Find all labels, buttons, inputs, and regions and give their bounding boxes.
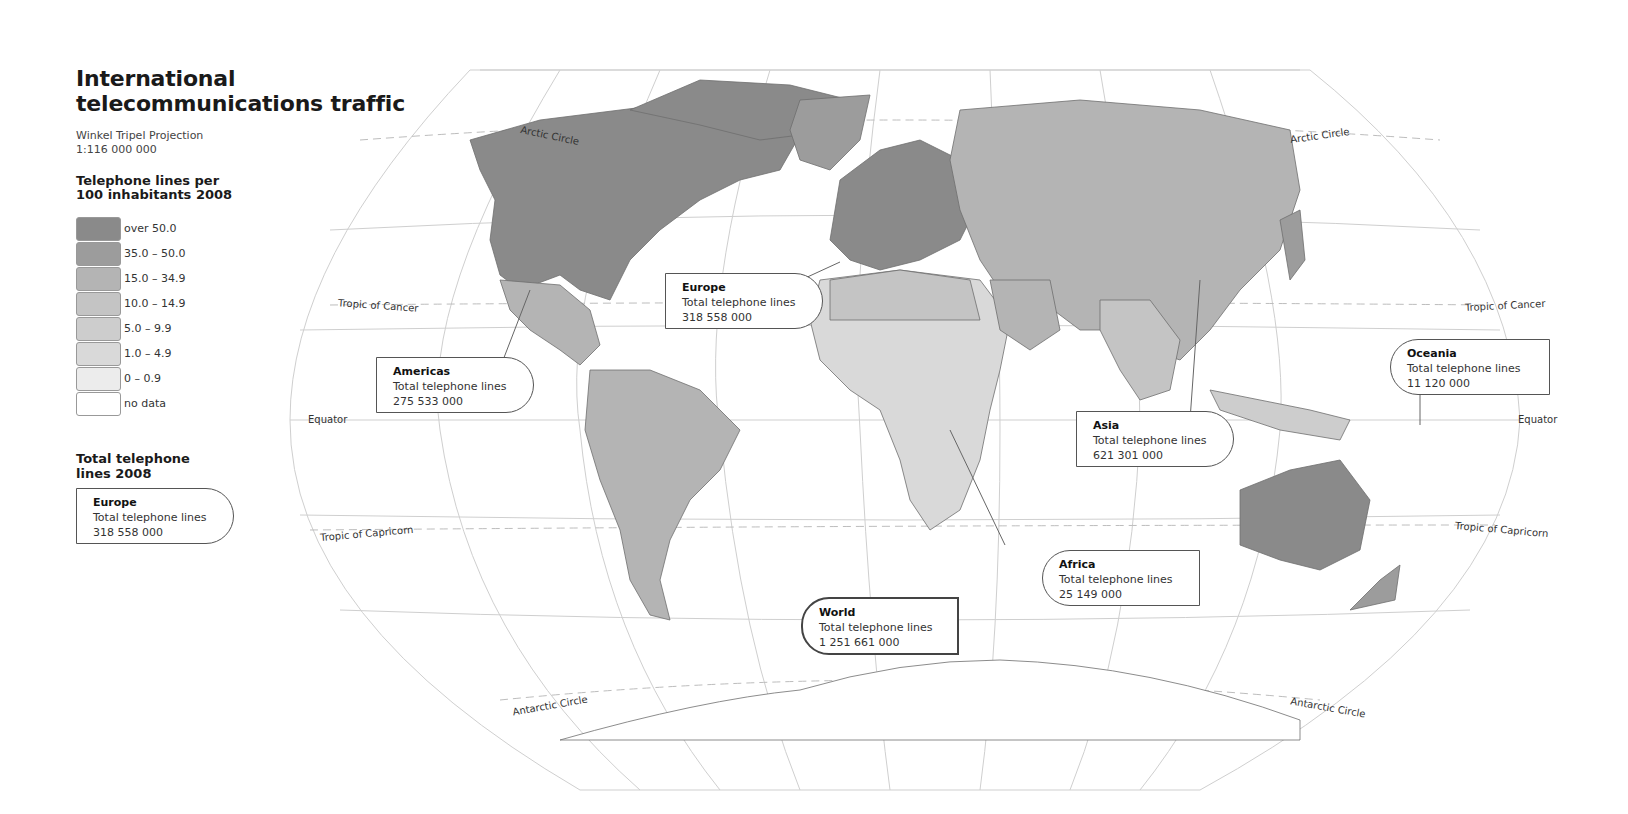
callout-value: 1 251 661 000 <box>819 635 947 650</box>
totals-title-line1: Total telephone <box>76 451 190 466</box>
legend-swatch <box>76 392 121 416</box>
callout-europe: Europe Total telephone lines 318 558 000 <box>665 273 823 329</box>
legend-title-line2: 100 inhabitants 2008 <box>76 188 232 202</box>
legend-item: 10.0 – 14.9 <box>76 291 185 316</box>
legend-item: 5.0 – 9.9 <box>76 316 185 341</box>
projection-info: Winkel Tripel Projection 1:116 000 000 <box>76 129 203 157</box>
legend-label: 0 – 0.9 <box>124 372 161 385</box>
legend-item: over 50.0 <box>76 216 185 241</box>
callout-label: Total telephone lines <box>1059 572 1189 587</box>
legend-label: 1.0 – 4.9 <box>124 347 171 360</box>
map-title: International telecommunications traffic <box>76 66 405 116</box>
callout-region: Americas <box>393 364 523 379</box>
callout-region: World <box>819 605 947 620</box>
legend-swatch <box>76 217 121 241</box>
totals-legend-title: Total telephone lines 2008 <box>76 451 190 481</box>
callout-value: 318 558 000 <box>93 525 223 540</box>
callout-value: 318 558 000 <box>682 310 812 325</box>
callout-oceania: Oceania Total telephone lines 11 120 000 <box>1390 339 1550 395</box>
callout-americas: Americas Total telephone lines 275 533 0… <box>376 357 534 413</box>
legend-item: 0 – 0.9 <box>76 366 185 391</box>
legend-swatch <box>76 367 121 391</box>
legend-label: over 50.0 <box>124 222 177 235</box>
legend-swatch <box>76 242 121 266</box>
callout-value: 11 120 000 <box>1407 376 1539 391</box>
callout-world: World Total telephone lines 1 251 661 00… <box>801 597 959 655</box>
callout-label: Total telephone lines <box>1093 433 1223 448</box>
map-title-line1: International <box>76 66 405 91</box>
world-map <box>0 0 1628 814</box>
legend-swatch <box>76 267 121 291</box>
callout-region: Asia <box>1093 418 1223 433</box>
legend-swatch <box>76 342 121 366</box>
legend-item: 35.0 – 50.0 <box>76 241 185 266</box>
callout-label: Total telephone lines <box>93 510 223 525</box>
callout-value: 25 149 000 <box>1059 587 1189 602</box>
callout-region: Europe <box>682 280 812 295</box>
callout-label: Total telephone lines <box>1407 361 1539 376</box>
callout-region: Oceania <box>1407 346 1539 361</box>
legend-title-line1: Telephone lines per <box>76 174 232 188</box>
legend-label: no data <box>124 397 166 410</box>
map-title-line2: telecommunications traffic <box>76 91 405 116</box>
callout-label: Total telephone lines <box>819 620 947 635</box>
callout-region: Europe <box>93 495 223 510</box>
legend-label: 5.0 – 9.9 <box>124 322 171 335</box>
callout-value: 621 301 000 <box>1093 448 1223 463</box>
equator-label-right: Equator <box>1518 414 1557 425</box>
callout-label: Total telephone lines <box>393 379 523 394</box>
legend-title: Telephone lines per 100 inhabitants 2008 <box>76 174 232 202</box>
legend-label: 35.0 – 50.0 <box>124 247 185 260</box>
legend-item: no data <box>76 391 185 416</box>
legend-label: 10.0 – 14.9 <box>124 297 185 310</box>
callout-asia: Asia Total telephone lines 621 301 000 <box>1076 411 1234 467</box>
callout-africa: Africa Total telephone lines 25 149 000 <box>1042 550 1200 606</box>
totals-legend-example: Europe Total telephone lines 318 558 000 <box>76 488 234 544</box>
legend-swatch <box>76 317 121 341</box>
map-scale: 1:116 000 000 <box>76 143 203 157</box>
legend-label: 15.0 – 34.9 <box>124 272 185 285</box>
totals-title-line2: lines 2008 <box>76 466 190 481</box>
legend-item: 15.0 – 34.9 <box>76 266 185 291</box>
projection-name: Winkel Tripel Projection <box>76 129 203 143</box>
callout-region: Africa <box>1059 557 1189 572</box>
legend-swatch <box>76 292 121 316</box>
legend-item: 1.0 – 4.9 <box>76 341 185 366</box>
equator-label-left: Equator <box>308 414 347 425</box>
callout-label: Total telephone lines <box>682 295 812 310</box>
choropleth-legend: over 50.0 35.0 – 50.0 15.0 – 34.9 10.0 –… <box>76 216 185 416</box>
callout-value: 275 533 000 <box>393 394 523 409</box>
